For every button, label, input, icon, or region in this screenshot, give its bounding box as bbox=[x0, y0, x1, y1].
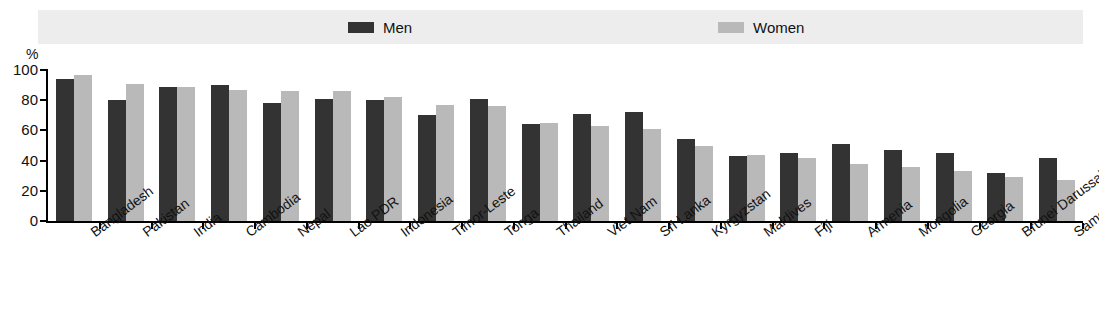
y-axis-unit-label: % bbox=[26, 47, 38, 61]
y-axis-tick bbox=[40, 129, 48, 131]
bar-women bbox=[850, 164, 868, 221]
y-axis-tick-label: 100 bbox=[13, 62, 38, 77]
x-axis-category-label: Mongolia bbox=[916, 228, 924, 239]
y-axis-tick bbox=[40, 99, 48, 101]
bar-men bbox=[211, 85, 229, 221]
x-axis-category-label: Cambodia bbox=[243, 228, 251, 239]
y-axis-tick-label: 20 bbox=[21, 183, 38, 198]
bar-group bbox=[56, 70, 92, 221]
chart-legend: Men Women bbox=[38, 10, 1083, 44]
x-axis-category-label: Maldives bbox=[761, 228, 769, 239]
x-axis-category-label: Georgia bbox=[968, 228, 976, 239]
legend-item-women: Women bbox=[718, 20, 804, 35]
y-axis-tick bbox=[40, 220, 48, 222]
bar-women bbox=[333, 91, 351, 221]
bar-group bbox=[832, 70, 868, 221]
y-axis-tick-label: 40 bbox=[21, 153, 38, 168]
x-axis-category-label: Lao PDR bbox=[347, 228, 355, 239]
x-axis-category-label: Samoa bbox=[1071, 228, 1079, 239]
y-axis-tick-label: 60 bbox=[21, 122, 38, 137]
x-axis-category-label: Tonga bbox=[502, 228, 510, 239]
plot-area bbox=[48, 70, 1083, 221]
bar-group bbox=[315, 70, 351, 221]
bar-chart: Men Women % 100806040200 BangladeshPakis… bbox=[0, 0, 1099, 323]
y-axis-tick bbox=[40, 160, 48, 162]
x-axis-category-label: Viet Nam bbox=[605, 228, 613, 239]
legend-swatch-women bbox=[718, 22, 744, 33]
x-axis-category-label: Sri Lanka bbox=[657, 228, 665, 239]
x-axis-category-label: Thailand bbox=[554, 228, 562, 239]
bar-men bbox=[832, 144, 850, 221]
x-axis-category-label: Nepal bbox=[295, 228, 303, 239]
legend-label-women: Women bbox=[753, 20, 804, 35]
x-axis-category-label: Armenia bbox=[864, 228, 872, 239]
x-axis-category-label: India bbox=[191, 228, 199, 239]
bar-women bbox=[540, 123, 558, 221]
x-axis-category-label: Brunei Darussalam bbox=[1019, 228, 1027, 239]
legend-label-men: Men bbox=[383, 20, 412, 35]
legend-swatch-men bbox=[348, 22, 374, 33]
x-axis-category-label: Kyrgyzstan bbox=[709, 228, 717, 239]
bar-group bbox=[211, 70, 247, 221]
y-axis-tick-label: 0 bbox=[30, 213, 38, 228]
legend-item-men: Men bbox=[348, 20, 412, 35]
x-axis-category-label: Fiji bbox=[812, 228, 820, 239]
bar-men bbox=[315, 99, 333, 221]
x-axis-category-label: Bangladesh bbox=[88, 228, 96, 239]
x-axis-category-label: Timor-Leste bbox=[450, 228, 458, 239]
y-axis-tick bbox=[40, 69, 48, 71]
bar-men bbox=[56, 79, 74, 221]
x-axis-category-label: Pakistan bbox=[140, 228, 148, 239]
bar-group bbox=[522, 70, 558, 221]
bar-women bbox=[229, 90, 247, 221]
y-axis-tick-label: 80 bbox=[21, 92, 38, 107]
y-axis-tick bbox=[40, 190, 48, 192]
x-axis-category-label: Indonesia bbox=[398, 228, 406, 239]
bar-women bbox=[74, 75, 92, 221]
